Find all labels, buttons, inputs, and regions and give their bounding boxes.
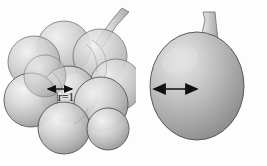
single-sphere-graphic: [136, 0, 267, 166]
sphere-cluster-graphic: [0, 0, 136, 166]
radius-label-r1: r=1: [58, 91, 74, 103]
single-sphere-body: [150, 32, 244, 140]
figure-root: r=1: [0, 0, 267, 166]
panel-sphere-cluster: r=1: [0, 0, 136, 166]
panel-single-sphere: r=2: [136, 0, 267, 166]
